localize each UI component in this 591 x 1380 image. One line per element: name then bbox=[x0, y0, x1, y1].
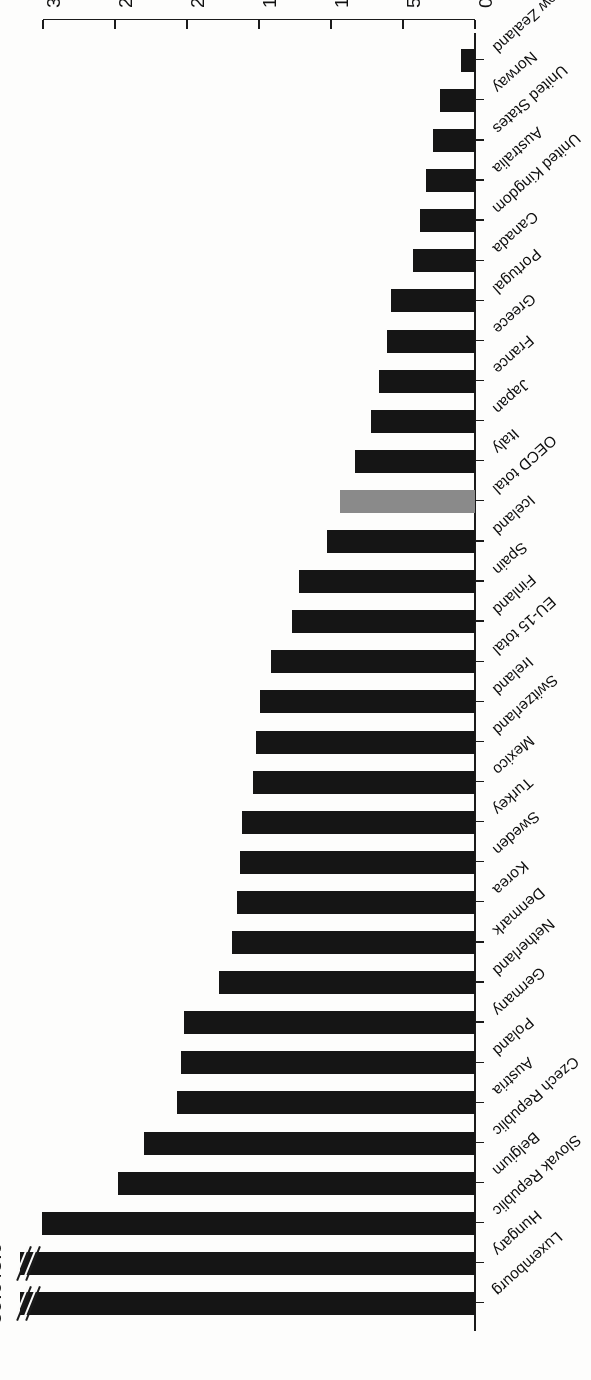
bar-mexico bbox=[253, 771, 475, 794]
bar-belgium bbox=[118, 1172, 475, 1195]
value-tick bbox=[258, 20, 259, 29]
category-label: France bbox=[489, 332, 537, 378]
value-tick-label: 15 bbox=[259, 0, 281, 8]
value-tick-label: 25 bbox=[115, 0, 137, 8]
category-tick bbox=[475, 340, 484, 341]
category-tick bbox=[475, 981, 484, 982]
category-label: Italy bbox=[489, 425, 523, 458]
bar-ireland bbox=[260, 691, 475, 714]
bar-denmark bbox=[232, 931, 475, 954]
category-tick bbox=[475, 219, 484, 220]
category-tick bbox=[475, 901, 484, 902]
bar-italy bbox=[355, 450, 475, 473]
category-tick bbox=[475, 1182, 484, 1183]
value-tick bbox=[330, 20, 331, 29]
bar-hungary bbox=[20, 1252, 475, 1275]
bar-australia bbox=[426, 169, 475, 192]
value-tick-label: 20 bbox=[187, 0, 209, 8]
bar-portugal bbox=[391, 290, 475, 313]
value-tick-label: 0 bbox=[475, 0, 497, 8]
category-tick bbox=[475, 179, 484, 180]
bar-norway bbox=[440, 89, 475, 112]
bar-netherland bbox=[219, 971, 475, 994]
chart-page: 051015202530Luxembourg59.6Hungary48.0Slo… bbox=[0, 0, 591, 1380]
bar-turkey bbox=[242, 811, 475, 834]
bar-greece bbox=[387, 330, 475, 353]
bar-austria bbox=[177, 1092, 475, 1115]
category-tick bbox=[475, 99, 484, 100]
category-label: Sweden bbox=[489, 808, 543, 859]
value-tick bbox=[186, 20, 187, 29]
value-tick bbox=[42, 20, 43, 29]
category-tick bbox=[475, 620, 484, 621]
value-tick-label: 30 bbox=[43, 0, 65, 8]
bar-value-label: 59.6 bbox=[0, 1282, 6, 1324]
category-tick bbox=[475, 1262, 484, 1263]
bar-germany bbox=[184, 1011, 475, 1034]
bar-luxembourg bbox=[20, 1292, 475, 1315]
category-tick bbox=[475, 941, 484, 942]
bar-japan bbox=[371, 410, 475, 433]
category-tick bbox=[475, 1302, 484, 1303]
category-label: Greece bbox=[489, 290, 539, 338]
bar-spain bbox=[299, 570, 475, 593]
category-tick bbox=[475, 540, 484, 541]
bar-eu-15-total bbox=[271, 650, 475, 673]
bar-iceland bbox=[327, 530, 475, 553]
category-tick bbox=[475, 821, 484, 822]
category-label: Mexico bbox=[489, 732, 538, 779]
value-tick bbox=[474, 20, 475, 29]
bar-oecd-total bbox=[340, 490, 475, 513]
bar-united-kingdom bbox=[420, 209, 475, 232]
category-tick bbox=[475, 1142, 484, 1143]
category-tick bbox=[475, 781, 484, 782]
value-tick bbox=[114, 20, 115, 29]
chart-figure-rotated: 051015202530Luxembourg59.6Hungary48.0Slo… bbox=[0, 0, 591, 1380]
bar-finland bbox=[292, 610, 475, 633]
value-tick bbox=[402, 20, 403, 29]
category-tick bbox=[475, 260, 484, 261]
bar-france bbox=[379, 370, 475, 393]
bar-canada bbox=[413, 249, 475, 272]
category-label: Iceland bbox=[489, 491, 539, 538]
category-tick bbox=[475, 380, 484, 381]
bar-new-zealand bbox=[461, 49, 475, 72]
bar-chart-plot: 051015202530Luxembourg59.6Hungary48.0Slo… bbox=[0, 0, 591, 1380]
bar-sweden bbox=[240, 851, 475, 874]
category-tick bbox=[475, 300, 484, 301]
bar-value-label: 48.0 bbox=[0, 1242, 6, 1284]
category-label: Japan bbox=[489, 376, 533, 418]
category-tick bbox=[475, 1021, 484, 1022]
value-tick-label: 5 bbox=[403, 0, 425, 8]
category-tick bbox=[475, 420, 484, 421]
category-tick bbox=[475, 861, 484, 862]
bar-united-states bbox=[433, 129, 475, 152]
category-tick bbox=[475, 1062, 484, 1063]
category-tick bbox=[475, 460, 484, 461]
bar-poland bbox=[181, 1051, 475, 1074]
category-label: Poland bbox=[489, 1014, 537, 1060]
category-tick bbox=[475, 580, 484, 581]
category-tick bbox=[475, 139, 484, 140]
category-tick bbox=[475, 661, 484, 662]
category-tick bbox=[475, 741, 484, 742]
category-tick bbox=[475, 500, 484, 501]
bar-slovak-republic bbox=[42, 1212, 475, 1235]
bar-czech-republic bbox=[144, 1132, 475, 1155]
bar-switzerland bbox=[256, 731, 475, 754]
category-tick bbox=[475, 1222, 484, 1223]
category-tick bbox=[475, 701, 484, 702]
bar-korea bbox=[237, 891, 475, 914]
category-tick bbox=[475, 59, 484, 60]
category-tick bbox=[475, 1102, 484, 1103]
value-tick-label: 10 bbox=[331, 0, 353, 8]
